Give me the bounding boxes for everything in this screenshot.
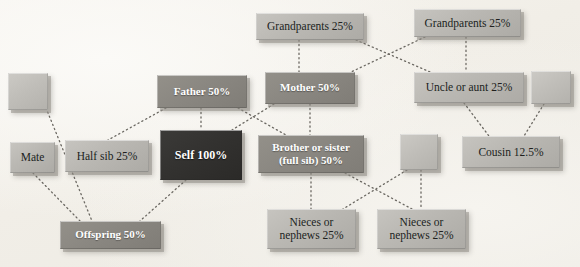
node-label-father: Father 50%	[170, 86, 234, 98]
node-label-grandparents_right: Grandparents 25%	[421, 17, 515, 29]
node-label-half_sib: Half sib 25%	[73, 150, 142, 162]
node-blank_middle[interactable]	[400, 134, 438, 170]
node-blank_topright[interactable]	[531, 71, 571, 104]
node-self[interactable]: Self 100%	[160, 130, 242, 180]
node-label-brother_sister: Brother or sister (full sib) 50%	[268, 141, 354, 167]
node-cousin[interactable]: Cousin 12.5%	[462, 136, 560, 168]
node-mother[interactable]: Mother 50%	[265, 72, 355, 104]
node-brother_sister[interactable]: Brother or sister (full sib) 50%	[258, 135, 364, 173]
node-blank_topleft[interactable]	[8, 73, 48, 110]
node-mate[interactable]: Mate	[10, 142, 55, 173]
node-label-mate: Mate	[17, 151, 49, 163]
node-grandparents_left[interactable]: Grandparents 25%	[256, 13, 364, 40]
node-offspring[interactable]: Offspring 50%	[60, 221, 161, 249]
node-nieces_nephews_right[interactable]: Nieces or nephews 25%	[377, 209, 466, 249]
node-label-nieces_nephews_right: Nieces or nephews 25%	[385, 216, 457, 243]
node-label-self: Self 100%	[171, 149, 231, 162]
node-label-nieces_nephews_left: Nieces or nephews 25%	[275, 216, 347, 243]
node-half_sib[interactable]: Half sib 25%	[65, 140, 149, 172]
node-label-grandparents_left: Grandparents 25%	[263, 20, 357, 32]
node-label-cousin: Cousin 12.5%	[474, 146, 547, 158]
node-label-uncle_aunt: Uncle or aunt 25%	[422, 81, 517, 93]
node-label-offspring: Offspring 50%	[71, 229, 150, 241]
kinship-diagram: Father 50%Mother 50%Grandparents 25%Gran…	[0, 0, 580, 267]
node-grandparents_right[interactable]: Grandparents 25%	[414, 9, 521, 37]
node-label-mother: Mother 50%	[276, 82, 344, 94]
node-father[interactable]: Father 50%	[157, 75, 247, 108]
node-uncle_aunt[interactable]: Uncle or aunt 25%	[414, 72, 524, 103]
node-nieces_nephews_left[interactable]: Nieces or nephews 25%	[267, 209, 356, 249]
